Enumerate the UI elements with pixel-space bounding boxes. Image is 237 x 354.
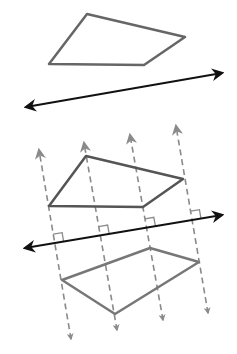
original-quadrilateral (49, 14, 185, 65)
reflected-quadrilateral (62, 248, 199, 314)
reflection-diagram (0, 0, 237, 354)
right-angle-mark-4 (191, 210, 201, 219)
preimage-quadrilateral (49, 156, 183, 207)
reflection-line-top (26, 73, 222, 107)
reflection-line-middle (25, 215, 222, 248)
